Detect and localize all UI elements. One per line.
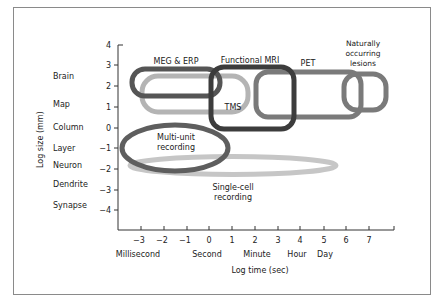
single-cell-label-line2: recording [214,193,252,202]
y-category-labels: Brain Map Column Layer Neuron Dendrite S… [53,72,88,210]
x-tick: 2 [252,236,257,245]
y-tick: 0 [106,124,111,133]
x-tick: 3 [275,236,280,245]
x-cat-hour: Hour [287,250,307,259]
x-tick: 0 [206,236,211,245]
x-axis [118,226,394,230]
x-tick-labels: −3 −2 −1 0 1 2 3 4 5 6 7 [133,236,371,245]
pet-label: PET [301,59,316,68]
x-cat-day: Day [317,250,333,259]
y-axis [114,45,123,230]
y-tick-labels: 4 3 2 1 0 −1 −2 −3 −4 [99,41,111,215]
x-tick: −2 [156,236,168,245]
x-tick: 1 [229,236,234,245]
single-cell-label-line1: Single-cell [212,183,253,192]
y-cat-column: Column [53,123,84,132]
x-tick: −1 [179,236,191,245]
y-tick: −1 [99,144,111,153]
x-tick: 7 [366,236,371,245]
y-tick: −2 [99,165,111,174]
x-cat-second: Second [192,250,221,259]
y-cat-brain: Brain [53,72,74,81]
y-tick: 1 [106,103,111,112]
y-cat-map: Map [53,100,70,109]
tms-label: TMS [224,103,242,112]
y-tick: 2 [106,82,111,91]
functional-mri-label: Functional MRI [221,56,280,65]
y-cat-synapse: Synapse [53,201,87,210]
lesions-region [344,74,386,110]
x-tick: 6 [343,236,348,245]
y-axis-title: Log size (mm) [36,111,45,168]
x-tick: −3 [133,236,145,245]
x-tick: 5 [321,236,326,245]
x-cat-millisecond: Millisecond [116,250,160,259]
meg-erp-label: MEG & ERP [154,57,199,66]
x-category-labels: Millisecond Second Minute Hour Day [116,250,333,259]
chart-canvas: 4 3 2 1 0 −1 −2 −3 −4 Brain Map Column L… [0,0,444,308]
x-tick: 4 [297,236,302,245]
multi-unit-label-line2: recording [157,143,195,152]
y-tick: −3 [99,186,111,195]
y-cat-layer: Layer [53,144,76,153]
multi-unit-label-line1: Multi-unit [157,133,195,142]
x-axis-title: Log time (sec) [231,266,288,275]
x-cat-minute: Minute [243,250,270,259]
lesions-label-line3: lesions [350,59,376,68]
y-tick: 3 [106,61,111,70]
lesions-label-line2: occurring [345,49,380,58]
y-tick: −4 [99,206,111,215]
lesions-label-line1: Naturally [346,39,381,48]
y-tick: 4 [106,41,111,50]
y-cat-dendrite: Dendrite [53,180,88,189]
y-cat-neuron: Neuron [53,161,82,170]
